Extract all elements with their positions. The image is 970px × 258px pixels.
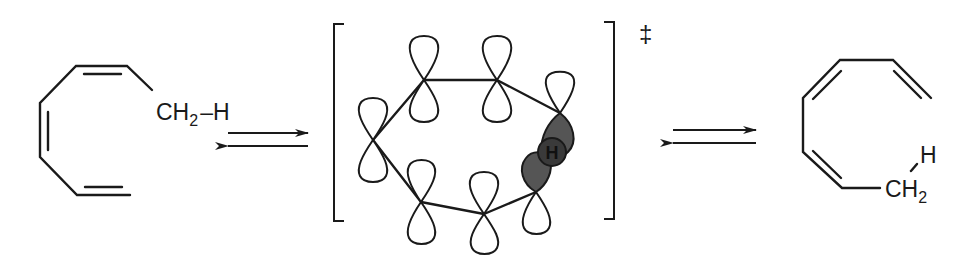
h-bond: [911, 164, 917, 171]
reactant-ch2-label: CH2–H: [156, 99, 230, 129]
reaction-diagram: CH2–H ‡: [0, 0, 970, 258]
equilibrium-arrow-1: [228, 133, 308, 146]
left-bracket: [334, 24, 344, 221]
p-orbital-6: [523, 192, 551, 234]
product-ch2-label: CH2: [885, 176, 927, 206]
right-bracket: [604, 22, 614, 219]
reactant-skeleton: [40, 66, 152, 195]
ring-bonds: [373, 80, 560, 214]
product-molecule: [803, 60, 931, 188]
p-orbital-8: [408, 160, 436, 244]
p-orbital-1: [359, 98, 387, 182]
equilibrium-arrow-2: [673, 130, 756, 143]
migrating-hydrogen: H: [538, 138, 566, 166]
reactant-molecule: [40, 66, 152, 195]
transition-state-orbitals: H: [359, 36, 574, 254]
product-h-label: H: [920, 142, 937, 168]
hydrogen-label: H: [546, 143, 559, 163]
double-dagger-marker: ‡: [639, 20, 652, 47]
